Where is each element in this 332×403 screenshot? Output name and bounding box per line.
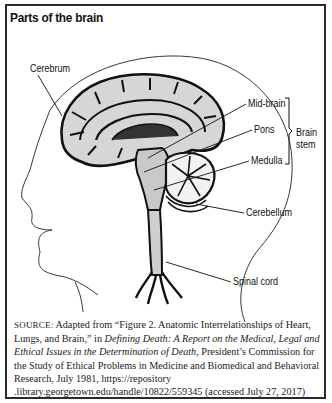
brainstem-bracket [285, 98, 292, 164]
label-cerebrum: Cerebrum [30, 63, 70, 74]
label-brain-stem-line1: Brain [296, 127, 317, 139]
label-brain-stem-line2: stem [296, 139, 317, 151]
label-spinal-cord: Spinal cord [233, 276, 278, 287]
label-pons: Pons [254, 124, 275, 135]
label-medulla: Medulla [251, 155, 283, 166]
cerebellum-shape [166, 153, 214, 212]
label-midbrain: Mid-brain [248, 98, 286, 109]
spinal-cord-shape [136, 210, 182, 304]
label-brain-stem: Brain stem [296, 127, 317, 151]
source-prefix: SOURCE: [14, 320, 53, 330]
source-citation: SOURCE: Adapted from “Figure 2. Anatomic… [14, 318, 320, 398]
brainstem-shape [136, 148, 169, 210]
label-cerebellum: Cerebellum [246, 207, 292, 218]
